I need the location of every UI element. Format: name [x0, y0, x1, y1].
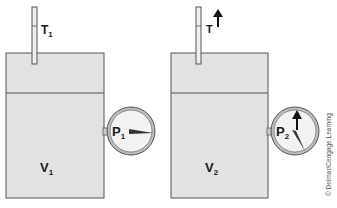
- thermometer-left: [32, 7, 37, 64]
- temperature-label-right: T: [206, 23, 213, 35]
- copyright-credit: © Delmar/Cengage Learning: [325, 113, 333, 196]
- right-panel: T P2 V2: [171, 7, 319, 198]
- temperature-label-left: T1: [41, 23, 53, 39]
- left-panel: T1 P1 V1: [6, 7, 155, 198]
- container-left: [6, 53, 104, 198]
- thermometer-right: [196, 7, 201, 64]
- temperature-increase-arrow-icon: [213, 9, 223, 27]
- gas-law-diagram: T1 P1 V1 T P2 V2: [0, 0, 337, 208]
- container-right: [171, 53, 268, 198]
